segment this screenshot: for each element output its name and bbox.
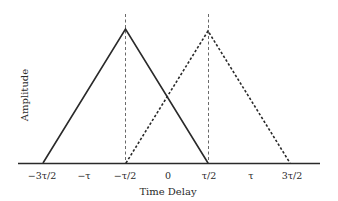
dotted-triangle <box>126 31 290 163</box>
y-axis-label: Amplitude <box>19 69 30 122</box>
xtick-label: −τ <box>77 170 90 181</box>
xtick-label: 0 <box>165 170 171 181</box>
x-axis-label: Time Delay <box>139 186 197 197</box>
xtick-label: τ <box>248 170 253 181</box>
xtick-label: 3τ/2 <box>282 170 303 181</box>
triangle-correlation-diagram: −3τ/2 −τ −τ/2 0 τ/2 τ 3τ/2 Time Delay Am… <box>0 0 338 201</box>
xtick-label: τ/2 <box>202 170 217 181</box>
xtick-label: −τ/2 <box>114 170 136 181</box>
xtick-label: −3τ/2 <box>28 170 57 181</box>
